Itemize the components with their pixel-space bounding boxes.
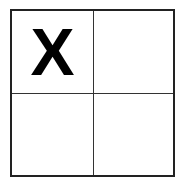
x-mark: X bbox=[30, 19, 74, 85]
board-cell-0[interactable]: X bbox=[12, 11, 94, 94]
board-cell-2[interactable] bbox=[12, 94, 94, 175]
game-board: X bbox=[10, 9, 175, 177]
board-cell-1[interactable] bbox=[94, 11, 173, 94]
board-cell-3[interactable] bbox=[94, 94, 173, 175]
